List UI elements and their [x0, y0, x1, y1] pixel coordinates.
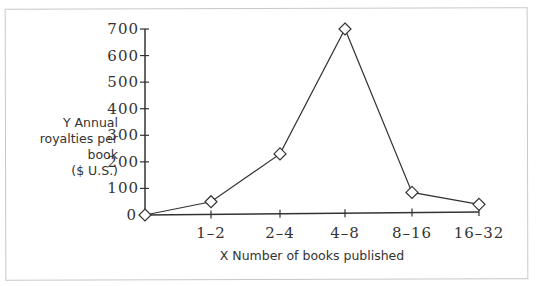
diamond-marker	[473, 198, 485, 210]
x-tick-label: 1–2	[196, 224, 226, 242]
x-axis	[145, 212, 479, 215]
y-title-line-2: royalties per	[40, 131, 119, 146]
data-markers	[139, 23, 485, 221]
diamond-marker	[339, 23, 351, 35]
series-line	[145, 29, 479, 215]
diamond-marker	[406, 186, 418, 198]
y-title-line-1: Y Annual	[62, 115, 118, 130]
y-axis-title: Y Annual royalties per book ($ U.S.)	[40, 115, 119, 178]
y-title-line-3: book	[88, 147, 119, 162]
diamond-marker	[274, 148, 286, 160]
y-title-line-4: ($ U.S.)	[71, 163, 118, 178]
x-tick-label: 2–4	[265, 224, 295, 242]
y-tick-label: 600	[107, 47, 139, 65]
x-tick-label: 8–16	[392, 224, 432, 242]
y-tick-label: 100	[107, 179, 139, 197]
y-tick-label: 0	[126, 206, 137, 224]
diamond-marker	[205, 196, 217, 208]
x-tick-label: 4–8	[330, 224, 360, 242]
x-axis-title: X Number of books published	[220, 248, 405, 263]
line-chart: 0100200300400500600700 1–22–44–88–1616–3…	[0, 0, 536, 286]
diamond-marker	[139, 209, 151, 221]
y-tick-label: 700	[107, 20, 139, 38]
y-tick-label: 500	[107, 73, 139, 91]
x-tick-label: 16–32	[454, 224, 505, 242]
